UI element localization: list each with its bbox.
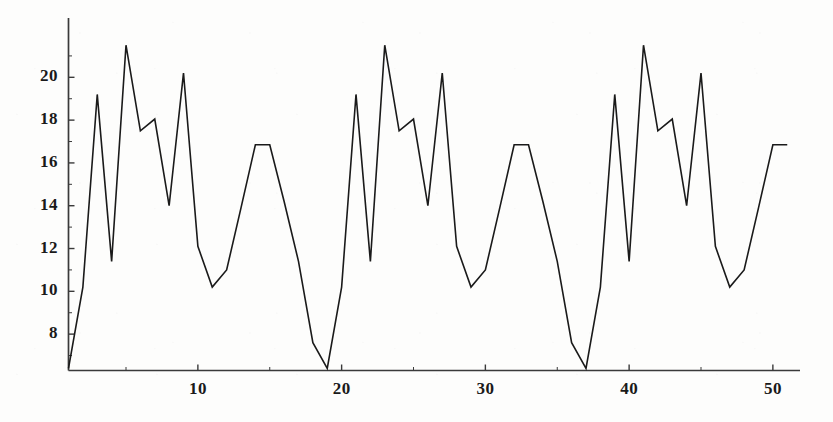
y-axis-tick-label: 16	[24, 152, 58, 172]
data-series-line	[69, 45, 788, 368]
y-axis-tick-label: 18	[24, 109, 58, 129]
x-axis-tick-label: 10	[178, 379, 218, 399]
chart-axes	[69, 18, 801, 371]
chart-plot-area	[0, 0, 833, 422]
y-axis-tick-label: 14	[24, 195, 58, 215]
y-axis-tick-label: 8	[24, 323, 58, 343]
y-axis-tick-label: 20	[24, 66, 58, 86]
y-axis-tick-label: 12	[24, 238, 58, 258]
x-axis-tick-label: 30	[465, 379, 505, 399]
x-axis-tick-label: 40	[609, 379, 649, 399]
chart-tick-marks	[69, 56, 773, 371]
line-chart: 8101214161820 1020304050	[0, 0, 833, 422]
y-axis-tick-label: 10	[24, 280, 58, 300]
x-axis-tick-label: 20	[322, 379, 362, 399]
x-axis-tick-label: 50	[753, 379, 793, 399]
